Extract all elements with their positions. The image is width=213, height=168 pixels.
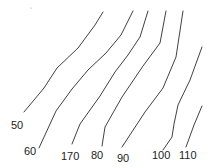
contour-line-50 — [24, 12, 103, 112]
contour-line-100 — [163, 47, 202, 150]
contour-lines — [24, 11, 202, 150]
contour-diagram: 50601708090100110 — [0, 0, 213, 168]
contour-label-90: 90 — [117, 152, 129, 164]
contour-line-110 — [186, 106, 202, 147]
contour-line-60 — [39, 11, 133, 148]
contour-label-80: 80 — [91, 149, 103, 161]
contour-label-110: 110 — [179, 149, 197, 161]
contour-label-100: 100 — [152, 149, 170, 161]
contour-label-60: 60 — [24, 145, 36, 157]
stray-marks — [30, 7, 31, 8]
contour-label-170: 170 — [61, 150, 79, 162]
contour-line-80 — [102, 11, 166, 146]
speck-mark — [30, 7, 31, 8]
contour-label-50: 50 — [11, 119, 23, 131]
